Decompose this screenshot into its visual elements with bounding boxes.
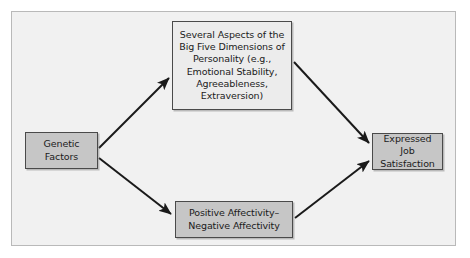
arrow-genetic-to-bigfive: [99, 78, 169, 148]
node-expressed-job-satisfaction-text: Expressed Job Satisfaction: [375, 133, 440, 169]
node-expressed-job-satisfaction[interactable]: Expressed Job Satisfaction: [372, 133, 443, 170]
node-line: Emotional Stability,: [177, 66, 287, 78]
node-positive-negative-affectivity[interactable]: Positive Affectivity– Negative Affectivi…: [175, 201, 293, 238]
arrow-affectivity-to-satisfaction: [295, 161, 369, 218]
node-line: Personality (e.g.,: [177, 53, 287, 65]
node-line: Negative Affectivity: [179, 220, 289, 232]
node-line: Big Five Dimensions of: [177, 41, 287, 53]
arrow-genetic-to-affectivity: [99, 158, 171, 214]
node-line: Positive Affectivity–: [179, 207, 289, 219]
node-line: Several Aspects of the: [177, 29, 287, 41]
node-line: Agreeableness,: [177, 78, 287, 90]
node-line: Factors: [26, 151, 97, 163]
figure-canvas: Genetic Factors Several Aspects of the B…: [0, 0, 470, 258]
node-genetic-factors-text: Genetic Factors: [26, 138, 97, 162]
node-big-five-dimensions-text: Several Aspects of the Big Five Dimensio…: [177, 29, 287, 102]
node-big-five-dimensions[interactable]: Several Aspects of the Big Five Dimensio…: [172, 21, 292, 110]
node-line: Genetic: [26, 138, 97, 150]
node-line: Expressed Job: [375, 133, 440, 157]
arrow-bigfive-to-satisfaction: [294, 62, 369, 143]
node-genetic-factors[interactable]: Genetic Factors: [25, 132, 98, 169]
node-line: Satisfaction: [375, 158, 440, 170]
node-positive-negative-affectivity-text: Positive Affectivity– Negative Affectivi…: [179, 207, 289, 231]
node-line: Extraversion): [177, 90, 287, 102]
